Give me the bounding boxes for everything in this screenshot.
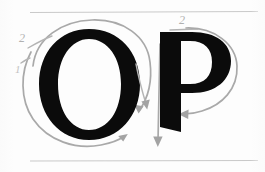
stroke-order-illustration: 2 1 2 (0, 0, 265, 172)
letter-o-path (39, 29, 140, 140)
ruling-lines-group (30, 12, 258, 162)
letter-p-path (160, 32, 231, 132)
p-stroke-2-entry-line (170, 29, 198, 30)
p-stroke-1-arrowhead (153, 137, 162, 148)
o-stroke-number-2: 2 (19, 31, 25, 45)
o-stroke-1-arrowhead (118, 134, 128, 142)
calligraphy-diagram-canvas: 2 1 2 (0, 0, 265, 172)
letter-p-glyph (160, 32, 231, 132)
o-stroke-number-1: 1 (15, 63, 21, 75)
o-stroke-1-tick (21, 58, 30, 63)
bottom-rule-line (30, 161, 258, 162)
p-stroke-1-stem-line (158, 44, 160, 141)
top-rule-line (30, 12, 258, 13)
p-stroke-number-2: 2 (179, 13, 185, 27)
letter-o-glyph (39, 29, 140, 140)
